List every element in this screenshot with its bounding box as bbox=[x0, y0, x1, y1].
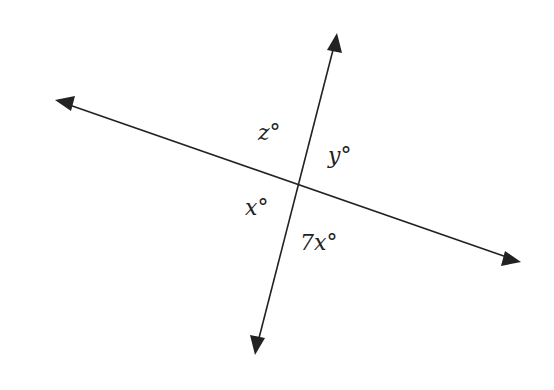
angle-label-z: z° bbox=[257, 120, 281, 145]
angle-label-7x: 7x° bbox=[300, 230, 337, 255]
arrowhead-right-icon bbox=[501, 251, 521, 266]
angle-label-y: y° bbox=[327, 143, 351, 168]
arrowhead-bottom-icon bbox=[250, 335, 265, 355]
line-b bbox=[258, 46, 334, 342]
arrowhead-left-icon bbox=[55, 96, 75, 111]
line-a bbox=[68, 105, 508, 258]
angle-label-x: x° bbox=[245, 195, 268, 220]
arrowhead-top-icon bbox=[327, 33, 342, 53]
angle-diagram: z° y° x° 7x° bbox=[0, 0, 554, 390]
